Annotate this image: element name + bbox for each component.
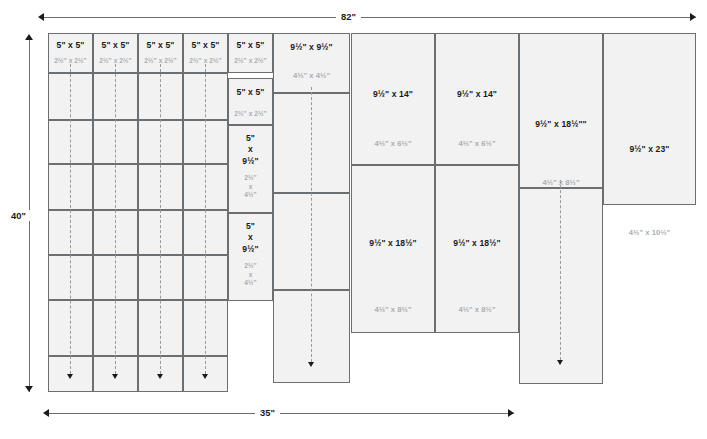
piece-c5r2-primary: 5" x 5" [229, 87, 272, 97]
piece-c5r3-primary: 5" x 9½" [229, 133, 272, 167]
cut-guide-column-9 [560, 180, 561, 360]
cut-guide-column-1 [70, 64, 71, 374]
cutting-layout-diagram: 82" 40" 35" 5" x 5" 2½" x 2½" 5" x 5" 2½… [0, 0, 707, 439]
piece-c2r1-primary: 5" x 5" [94, 40, 137, 50]
piece-c5r4-secondary: 2½" x 4½" [229, 262, 272, 288]
piece-c5r2-secondary: 2½" x 2½" [229, 110, 272, 118]
piece-c5r4: 5" x 9½" 2½" x 4½" [228, 213, 273, 301]
bottom-dimension-arrow-right [508, 409, 514, 417]
piece-c8r1-secondary: 4½" x 6½" [436, 139, 518, 148]
piece-c7r1: 9½" x 14" 4½" x 6½" [351, 33, 435, 165]
piece-c9r1-secondary: 4½" x 8½" [520, 178, 602, 187]
piece-c10r1-secondary: 4½" x 10½" [603, 228, 696, 237]
piece-c7r2: 9½" x 18½" 4½" x 8½" [351, 165, 435, 333]
cut-guide-column-2 [115, 64, 116, 374]
piece-c5r3-secondary: 2½" x 4½" [229, 174, 272, 200]
bottom-dimension-label: 35" [255, 407, 280, 418]
piece-c8r2: 9½" x 18½" 4½" x 8½" [435, 165, 519, 333]
piece-c5r2: 5" x 5" 2½" x 2½" [228, 78, 273, 125]
piece-c3r1-primary: 5" x 5" [139, 40, 182, 50]
piece-c6r1-secondary: 4½" x 4½" [274, 71, 349, 80]
piece-c8r2-secondary: 4½" x 8½" [436, 305, 518, 314]
piece-c9r2 [519, 188, 603, 384]
top-dimension-line [44, 17, 696, 18]
top-dimension-arrow-right [690, 13, 696, 21]
top-dimension-label: 82" [336, 11, 361, 22]
cut-guide-column-4 [205, 64, 206, 374]
piece-c8r2-primary: 9½" x 18½" [436, 238, 518, 248]
cut-guide-arrow-column-1 [67, 374, 73, 379]
piece-c7r2-secondary: 4½" x 8½" [352, 305, 434, 314]
cut-guide-column-6 [311, 87, 312, 362]
piece-c10r1-primary: 9½" x 23" [604, 144, 695, 154]
left-dimension-arrow-down [25, 386, 33, 392]
piece-c8r1-primary: 9½" x 14" [436, 89, 518, 99]
cut-guide-arrow-column-6 [308, 362, 314, 367]
piece-c7r1-primary: 9½" x 14" [352, 89, 434, 99]
piece-c8r1: 9½" x 14" 4½" x 6½" [435, 33, 519, 165]
piece-c5r1: 5" x 5" 2½" x 2½" [228, 33, 273, 73]
piece-c7r2-primary: 9½" x 18½" [352, 238, 434, 248]
piece-c6r1: 9½" x 9½" 4½" x 4½" [273, 33, 350, 93]
piece-c5r4-primary: 5" x 9½" [229, 221, 272, 255]
cut-guide-arrow-column-4 [202, 374, 208, 379]
left-dimension-arrow-up [25, 34, 33, 40]
piece-c5r1-primary: 5" x 5" [229, 40, 272, 50]
cut-guide-arrow-column-3 [157, 374, 163, 379]
cut-guide-arrow-column-2 [112, 374, 118, 379]
cut-guide-arrow-column-9 [557, 360, 563, 365]
piece-c4r1-primary: 5" x 5" [184, 40, 227, 50]
piece-c9r1: 9½" x 18½"" 4½" x 8½" [519, 33, 603, 188]
piece-c9r1-primary: 9½" x 18½"" [520, 119, 602, 129]
bottom-dimension-line [49, 413, 514, 414]
piece-c6r1-primary: 9½" x 9½" [274, 42, 349, 52]
bottom-dimension-arrow-left [43, 409, 49, 417]
piece-c5r3: 5" x 9½" 2½" x 4½" [228, 125, 273, 213]
piece-c7r1-secondary: 4½" x 6½" [352, 139, 434, 148]
left-dimension-label: 40" [6, 210, 31, 221]
piece-c10r1: 9½" x 23" [603, 33, 696, 205]
piece-c5r1-secondary: 2½" x 2½" [229, 57, 272, 65]
top-dimension-arrow-left [38, 13, 44, 21]
piece-c1r1-primary: 5" x 5" [49, 40, 92, 50]
cut-guide-column-3 [160, 64, 161, 374]
